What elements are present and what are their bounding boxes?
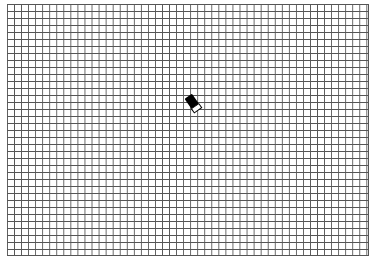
drawing-canvas-grid[interactable] [7, 4, 369, 256]
eraser-cursor-icon [183, 93, 203, 115]
